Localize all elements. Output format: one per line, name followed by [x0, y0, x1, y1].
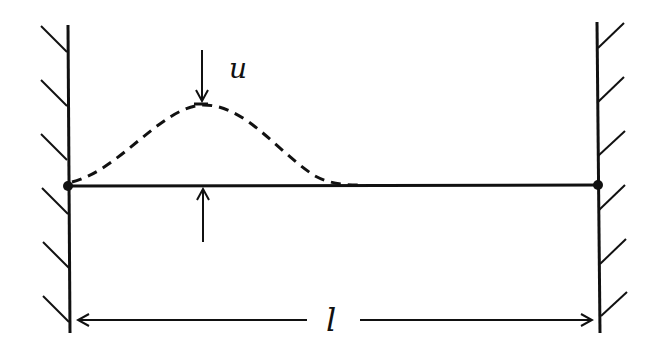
diagram-canvas: u l	[0, 0, 658, 351]
length-label: l	[326, 301, 336, 339]
left-endpoint-dot	[63, 181, 73, 191]
right-wall-hatching	[598, 23, 627, 316]
string-line	[68, 185, 598, 186]
length-dimension: l	[78, 301, 592, 339]
right-wall	[597, 22, 627, 333]
right-endpoint-dot	[593, 180, 603, 190]
displacement-label: u	[229, 52, 247, 85]
displacement-pulse-curve	[72, 105, 360, 185]
left-wall-hatching	[41, 26, 69, 322]
left-wall	[41, 25, 70, 333]
